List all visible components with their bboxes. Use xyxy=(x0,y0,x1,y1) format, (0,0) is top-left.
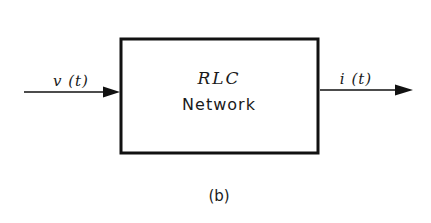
caption: (b) xyxy=(208,187,229,205)
block-diagram: v (t) RLC Network i (t) (b) xyxy=(0,0,431,223)
input-label: v (t) xyxy=(53,72,89,90)
block-title: RLC xyxy=(196,68,240,88)
block-subtitle: Network xyxy=(182,95,256,114)
output-label: i (t) xyxy=(340,70,372,88)
output-arrowhead-icon xyxy=(395,85,413,96)
input-arrowhead-icon xyxy=(103,87,120,98)
